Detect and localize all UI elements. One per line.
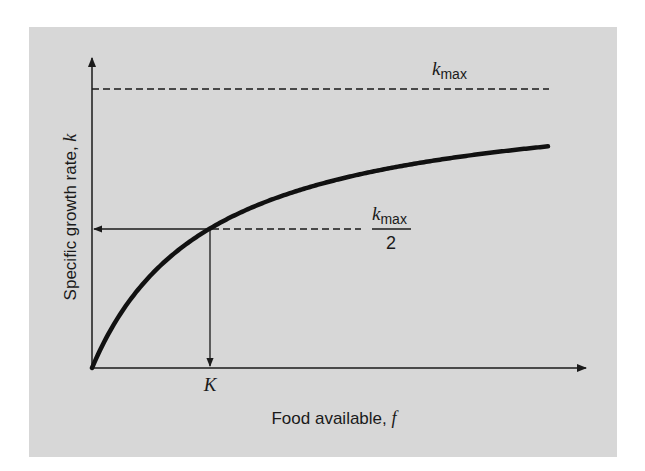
y-axis-label: Specific growth rate, k bbox=[60, 133, 80, 301]
growth-curve bbox=[92, 146, 548, 368]
x-axis-label: Food available, f bbox=[271, 408, 399, 428]
kmax-label: kmax bbox=[432, 58, 467, 82]
K-tick-label: K bbox=[203, 374, 218, 395]
half-kmax-label: kmax 2 bbox=[372, 203, 411, 253]
growth-rate-diagram: kmax kmax 2 K Food available, f Specific… bbox=[0, 0, 645, 471]
svg-text:kmax: kmax bbox=[372, 203, 407, 227]
half-denominator: 2 bbox=[386, 233, 396, 253]
